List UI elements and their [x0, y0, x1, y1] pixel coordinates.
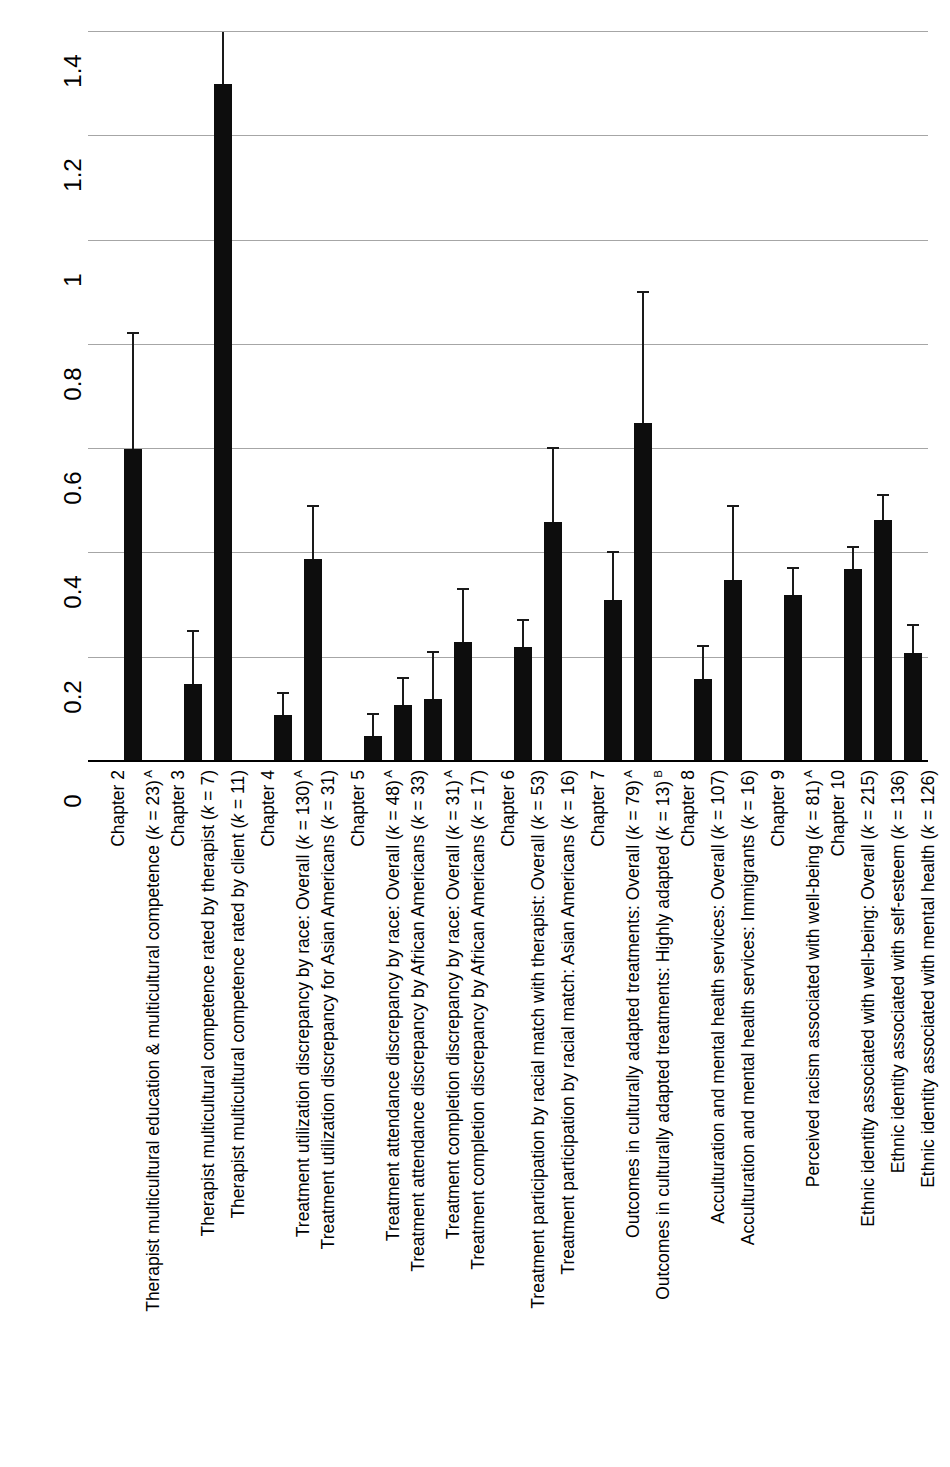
chapter-label-wrap: Chapter 2 [88, 766, 118, 1466]
error-bar-cap [787, 567, 799, 569]
chapter-spacer [238, 32, 268, 762]
bar-group [208, 32, 238, 762]
category-label-wrap: Treatment attendance discrepancy by race… [358, 766, 388, 1466]
error-bar-whisker [852, 548, 854, 569]
bar [424, 699, 442, 762]
error-bar-whisker [402, 679, 404, 705]
category-label-wrap: Acculturation and mental health services… [688, 766, 718, 1466]
error-bar-cap [547, 447, 559, 449]
category-label: Ethnic identity associated with mental h… [919, 770, 938, 1188]
bar-group [118, 32, 148, 762]
bar [304, 559, 322, 762]
chapter-label-wrap: Chapter 7 [568, 766, 598, 1466]
error-bar-cap [907, 624, 919, 626]
bar-group [598, 32, 628, 762]
error-bar-cap [877, 494, 889, 496]
bar [274, 715, 292, 762]
error-bar-whisker [462, 590, 464, 642]
error-bar-cap [607, 551, 619, 553]
category-label-wrap: Treatment completion discrepancy by race… [418, 766, 448, 1466]
category-label-wrap: Therapist multicultural education & mult… [118, 766, 148, 1466]
chapter-label-wrap: Chapter 5 [328, 766, 358, 1466]
category-label-wrap: Acculturation and mental health services… [718, 766, 748, 1466]
category-label-wrap: Ethnic identity associated with mental h… [898, 766, 928, 1466]
bar-group [388, 32, 418, 762]
k-symbol: k [918, 825, 938, 834]
chart-page: 00.20.40.60.811.21.4 Chapter 2Therapist … [0, 0, 950, 1467]
error-bar-cap [457, 588, 469, 590]
bar [124, 449, 142, 762]
error-bar-cap [397, 677, 409, 679]
error-bar-whisker [432, 653, 434, 700]
category-label-wrap: Therapist multicultural competence rated… [178, 766, 208, 1466]
bar-group [418, 32, 448, 762]
bar [724, 580, 742, 763]
category-label-wrap: Outcomes in culturally adapted treatment… [598, 766, 628, 1466]
bar-group [688, 32, 718, 762]
value-axis: 00.20.40.60.811.21.4 [0, 0, 88, 762]
chapter-label-wrap: Chapter 10 [808, 766, 838, 1466]
plot-area [88, 32, 928, 762]
error-bar-cap [127, 332, 139, 334]
bar-group [628, 32, 658, 762]
error-bar-whisker [192, 632, 194, 684]
bar-group [778, 32, 808, 762]
bar-group [538, 32, 568, 762]
category-label-wrap: Therapist multicultural competence rated… [208, 766, 238, 1466]
bar [904, 653, 922, 763]
chapter-spacer [658, 32, 688, 762]
bar [184, 684, 202, 762]
error-bar-cap [697, 645, 709, 647]
bar [604, 600, 622, 762]
chapter-spacer [748, 32, 778, 762]
bar-group [898, 32, 928, 762]
bar [874, 520, 892, 762]
error-bar-whisker [552, 449, 554, 522]
category-axis-labels: Chapter 2Therapist multicultural educati… [88, 766, 928, 1466]
error-bar-whisker [732, 507, 734, 580]
category-label-wrap: Treatment utilization discrepancy for As… [298, 766, 328, 1466]
bar [364, 736, 382, 762]
error-bar-whisker [222, 32, 224, 84]
category-label-wrap: Treatment completion discrepancy by Afri… [448, 766, 478, 1466]
category-label-wrap: Ethnic identity associated with well-bei… [838, 766, 868, 1466]
bar-group [868, 32, 898, 762]
error-bar-cap [307, 505, 319, 507]
bar-group [358, 32, 388, 762]
bar-group [298, 32, 328, 762]
chapter-label-wrap: Chapter 8 [658, 766, 688, 1466]
error-bar-whisker [912, 626, 914, 652]
category-label-wrap: Perceived racism associated with well-be… [778, 766, 808, 1466]
bar-group [718, 32, 748, 762]
bar [454, 642, 472, 762]
category-label-wrap: Treatment participation by racial match … [508, 766, 538, 1466]
error-bar-cap [517, 619, 529, 621]
error-bar-whisker [132, 334, 134, 449]
error-bar-cap [847, 546, 859, 548]
bar [634, 423, 652, 762]
category-label-wrap: Treatment attendance discrepancy by Afri… [388, 766, 418, 1466]
error-bar-whisker [792, 569, 794, 595]
category-label-wrap: Treatment participation by racial match:… [538, 766, 568, 1466]
error-bar-whisker [642, 293, 644, 423]
error-bar-cap [277, 692, 289, 694]
bar-group [448, 32, 478, 762]
bar [514, 647, 532, 762]
category-label-wrap: Outcomes in culturally adapted treatment… [628, 766, 658, 1466]
bar [694, 679, 712, 762]
chapter-label-wrap: Chapter 9 [748, 766, 778, 1466]
bar [544, 522, 562, 762]
chapter-spacer [478, 32, 508, 762]
category-label-wrap: Treatment utilization discrepancy by rac… [268, 766, 298, 1466]
chapter-spacer [568, 32, 598, 762]
bar-group [508, 32, 538, 762]
bar [784, 595, 802, 762]
category-label-wrap: Ethnic identity associated with self-est… [868, 766, 898, 1466]
chapter-spacer [328, 32, 358, 762]
error-bar-cap [187, 630, 199, 632]
chapter-spacer [808, 32, 838, 762]
bar [214, 84, 232, 762]
error-bar-whisker [522, 621, 524, 647]
bar [844, 569, 862, 762]
bar-group [178, 32, 208, 762]
